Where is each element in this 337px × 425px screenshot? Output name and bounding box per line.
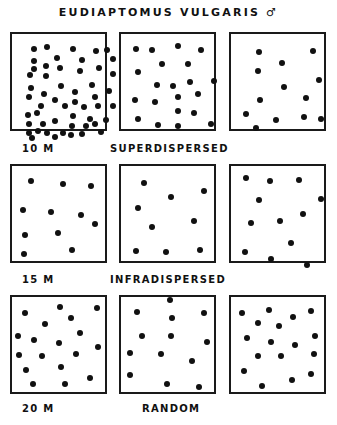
organism-dot (58, 83, 64, 89)
organism-dot (164, 381, 170, 387)
organism-dot (175, 123, 181, 129)
organism-dot (89, 82, 95, 88)
organism-dot (22, 310, 28, 316)
organism-dot (255, 320, 261, 326)
distribution-panel (119, 295, 216, 394)
organism-dot (95, 103, 101, 109)
organism-dot (26, 121, 32, 127)
organism-dot (31, 58, 37, 64)
organism-dot (79, 131, 85, 137)
organism-dot (168, 194, 174, 200)
organism-dot (56, 340, 62, 346)
organism-dot (244, 335, 250, 341)
organism-dot (16, 352, 22, 358)
organism-dot (158, 351, 164, 357)
organism-dot (281, 84, 287, 90)
organism-dot (43, 73, 49, 79)
organism-dot (197, 247, 203, 253)
organism-dot (52, 97, 58, 103)
organism-dot (201, 188, 207, 194)
organism-dot (133, 46, 139, 52)
depth-label: 20 M (22, 403, 55, 414)
organism-dot (256, 49, 262, 55)
organism-dot (308, 308, 314, 314)
organism-dot (28, 85, 34, 91)
organism-dot (22, 232, 28, 238)
organism-dot (54, 55, 60, 61)
organism-dot (189, 358, 195, 364)
organism-dot (42, 321, 48, 327)
organism-dot (168, 333, 174, 339)
organism-dot (290, 314, 296, 320)
distribution-panel (10, 164, 107, 263)
organism-dot (242, 249, 248, 255)
organism-dot (127, 372, 133, 378)
organism-dot (93, 48, 99, 54)
organism-dot (276, 323, 282, 329)
pattern-label: SUPERDISPERSED (110, 143, 229, 154)
organism-dot (318, 196, 324, 202)
organism-dot (52, 134, 58, 140)
organism-dot (68, 315, 74, 321)
organism-dot (255, 68, 261, 74)
organism-dot (83, 123, 89, 129)
organism-dot (289, 377, 295, 383)
organism-dot (266, 307, 272, 313)
organism-dot (134, 309, 140, 315)
organism-dot (296, 177, 302, 183)
organism-dot (110, 71, 116, 77)
organism-dot (98, 129, 104, 135)
organism-dot (88, 183, 94, 189)
distribution-panel (229, 295, 326, 394)
organism-dot (279, 60, 285, 66)
organism-dot (253, 125, 259, 131)
organism-dot (273, 117, 279, 123)
organism-dot (28, 178, 34, 184)
organism-dot (62, 381, 68, 387)
organism-dot (268, 256, 274, 262)
organism-dot (301, 114, 307, 120)
organism-dot (92, 94, 98, 100)
organism-dot (248, 220, 254, 226)
organism-dot (31, 337, 37, 343)
organism-dot (304, 262, 310, 268)
organism-dot (79, 57, 85, 63)
organism-dot (95, 344, 101, 350)
organism-dot (141, 180, 147, 186)
organism-dot (149, 224, 155, 230)
organism-dot (316, 77, 322, 83)
organism-dot (255, 353, 261, 359)
organism-dot (43, 63, 49, 69)
organism-dot (30, 381, 36, 387)
pattern-label: RANDOM (142, 403, 200, 414)
organism-dot (308, 371, 314, 377)
organism-dot (106, 88, 112, 94)
organism-dot (303, 95, 309, 101)
organism-dot (44, 130, 50, 136)
organism-dot (29, 135, 35, 141)
distribution-panel (119, 164, 216, 263)
distribution-panel (229, 164, 326, 263)
organism-dot (195, 91, 201, 97)
figure-title: EUDIAPTOMUS VULGARIS ♂ (0, 6, 337, 19)
organism-dot (110, 103, 116, 109)
organism-dot (92, 121, 98, 127)
organism-dot (198, 47, 204, 53)
organism-dot (70, 46, 76, 52)
organism-dot (310, 48, 316, 54)
organism-dot (48, 209, 54, 215)
organism-dot (167, 297, 173, 303)
organism-dot (191, 218, 197, 224)
organism-dot (62, 103, 68, 109)
organism-dot (87, 375, 93, 381)
organism-dot (31, 46, 37, 52)
organism-dot (27, 72, 33, 78)
organism-dot (175, 94, 181, 100)
organism-dot (31, 66, 37, 72)
organism-dot (139, 333, 145, 339)
distribution-panel (10, 32, 107, 131)
organism-dot (40, 121, 46, 127)
organism-dot (135, 116, 141, 122)
organism-dot (69, 123, 75, 129)
organism-dot (292, 342, 298, 348)
